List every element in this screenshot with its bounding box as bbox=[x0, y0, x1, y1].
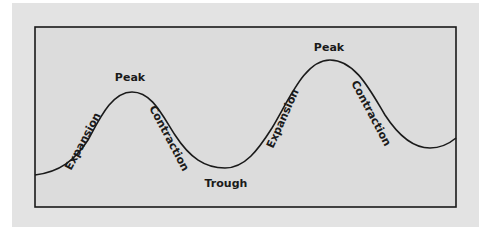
peak-label-1: Peak bbox=[115, 71, 146, 84]
peak-label-2: Peak bbox=[314, 41, 345, 54]
business-cycle-diagram: Peak Expansion Contraction Trough Expans… bbox=[0, 0, 492, 234]
trough-label: Trough bbox=[205, 177, 248, 190]
